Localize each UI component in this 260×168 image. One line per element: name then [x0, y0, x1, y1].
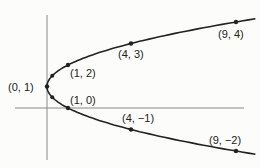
parabola-diagram: (0, 1) (1, 2) (1, 0) (4, 3) (4, −1) (9, …	[0, 0, 260, 168]
point-label: (9, −2)	[209, 134, 241, 146]
point-label: (4, 3)	[118, 48, 144, 60]
point-label: (0, 1)	[8, 81, 34, 93]
point-marker	[45, 84, 49, 88]
point-marker	[129, 41, 133, 45]
point-label: (4, −1)	[122, 112, 154, 124]
point-marker	[50, 95, 54, 99]
point-marker	[234, 149, 238, 153]
point-label: (1, 0)	[70, 94, 96, 106]
point-label: (1, 2)	[70, 67, 96, 79]
point-marker	[66, 106, 70, 110]
point-marker	[129, 127, 133, 131]
point-label: (9, 4)	[218, 28, 244, 40]
point-marker	[50, 74, 54, 78]
point-marker	[234, 20, 238, 24]
